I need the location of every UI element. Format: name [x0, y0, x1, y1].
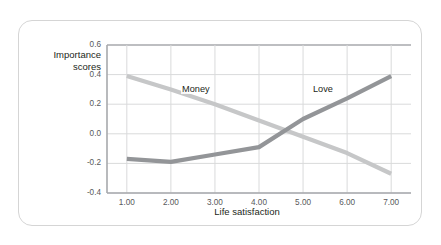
x-tick-label: 2.00 [154, 198, 188, 207]
x-tick-label: 4.00 [242, 198, 276, 207]
figure-card: Importance scores Life satisfaction 0.60… [18, 20, 422, 226]
series-label-love: Love [312, 84, 334, 94]
x-tick-label: 3.00 [198, 198, 232, 207]
x-axis-title: Life satisfaction [97, 206, 397, 218]
y-tick-label: -0.2 [75, 158, 101, 167]
x-tick-label: 7.00 [374, 198, 408, 207]
y-tick-label: -0.4 [75, 188, 101, 197]
series-label-money: Money [181, 84, 211, 94]
y-tick-label: 0.4 [75, 70, 101, 79]
x-tick-label: 5.00 [286, 198, 320, 207]
y-tick-label: 0.0 [75, 129, 101, 138]
x-tick-label: 1.00 [110, 198, 144, 207]
line-chart: Importance scores Life satisfaction 0.60… [19, 21, 423, 227]
y-tick-label: 0.2 [75, 99, 101, 108]
y-tick-label: 0.6 [75, 40, 101, 49]
x-tick-label: 6.00 [330, 198, 364, 207]
